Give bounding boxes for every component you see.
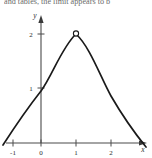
x-tick-label-0: 0 — [39, 149, 43, 157]
limit-graph-figure: y x -1 0 1 2 1 2 — [0, 0, 152, 158]
y-tick-label-2: 2 — [29, 31, 33, 39]
y-tick-label-1: 1 — [29, 85, 33, 93]
x-tick-label-2: 2 — [109, 149, 113, 157]
open-circle-icon — [73, 31, 78, 36]
x-tick-label-minus1: -1 — [10, 149, 16, 157]
y-axis-arrowhead — [38, 15, 43, 23]
x-tick-label-1: 1 — [74, 149, 78, 157]
figure-page: and tables, the limit appears to b y x -… — [0, 0, 152, 158]
y-axis-label: y — [32, 11, 37, 20]
curve-path — [3, 34, 146, 147]
